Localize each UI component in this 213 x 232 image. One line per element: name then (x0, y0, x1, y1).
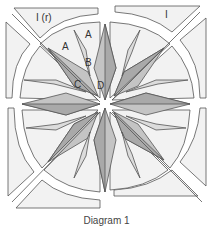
label-d: D (97, 80, 104, 91)
label-a-1: A (62, 41, 69, 52)
label-corner-top-left: I (r) (36, 12, 52, 23)
mariners-compass-diagram: I (r) I A A B C D (0, 0, 213, 215)
label-b: B (85, 57, 92, 68)
label-a-2: A (85, 29, 92, 40)
label-corner-top-right: I (165, 9, 168, 20)
diagram-caption: Diagram 1 (0, 215, 213, 226)
label-c: C (74, 79, 81, 90)
